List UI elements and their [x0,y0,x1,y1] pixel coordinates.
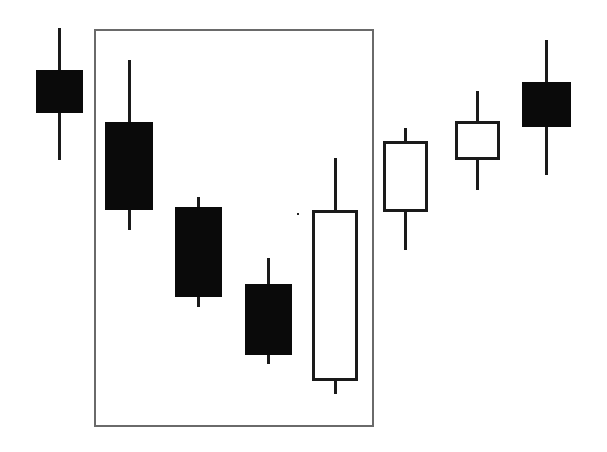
candle-body [522,82,571,127]
candle-body [36,70,83,113]
candle-body [175,207,222,297]
candlestick-chart [0,0,607,452]
candle-body [312,210,358,381]
candle-body [455,121,500,160]
candle-body [383,141,428,212]
stray-dot [297,213,299,215]
candle-body [245,284,292,355]
candle-body [105,122,153,210]
